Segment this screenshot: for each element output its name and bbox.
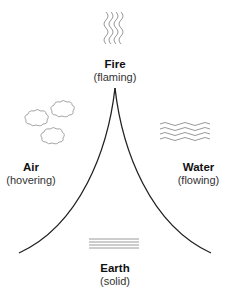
water-state: (flowing) — [168, 174, 229, 187]
water-label: Water (flowing) — [168, 161, 229, 187]
fire-label: Fire (flaming) — [80, 58, 150, 84]
earth-state: (solid) — [80, 275, 150, 288]
fire-state: (flaming) — [80, 71, 150, 84]
fire-name: Fire — [80, 58, 150, 71]
air-clouds-icon — [25, 101, 74, 144]
air-state: (hovering) — [0, 174, 62, 187]
water-wavy-lines-icon — [160, 123, 210, 141]
four-elements-diagram: Fire (flaming) Air (hovering) Water (flo… — [0, 0, 229, 297]
earth-label: Earth (solid) — [80, 262, 150, 288]
earth-lines-icon — [89, 239, 139, 248]
air-name: Air — [0, 161, 62, 174]
earth-name: Earth — [80, 262, 150, 275]
water-name: Water — [168, 161, 229, 174]
fire-wavy-lines-icon — [104, 12, 123, 44]
air-label: Air (hovering) — [0, 161, 62, 187]
